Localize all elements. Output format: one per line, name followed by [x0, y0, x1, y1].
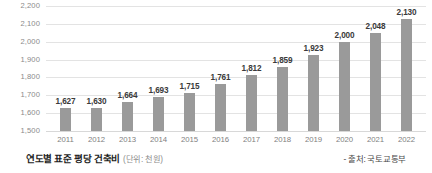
x-axis-tick-label: 2018 [267, 133, 298, 147]
bar[interactable] [184, 93, 195, 131]
bar[interactable] [401, 19, 412, 132]
bar-slot[interactable]: 1,812 [236, 6, 267, 131]
x-axis-tick-label: 2013 [112, 133, 143, 147]
bar[interactable] [246, 75, 257, 131]
bar-value-label: 1,664 [118, 91, 138, 100]
bar[interactable] [122, 102, 133, 131]
y-axis-tick-label: 1,700 [20, 91, 40, 99]
bar-slot[interactable]: 1,627 [50, 6, 81, 131]
bar-slot[interactable]: 2,048 [360, 6, 391, 131]
bar-slot[interactable]: 1,664 [112, 6, 143, 131]
bar-value-label: 1,630 [87, 97, 107, 106]
x-axis-tick-label: 2012 [81, 133, 112, 147]
gridline [46, 131, 426, 132]
caption-left: 연도별 표준 평당 건축비 (단위: 천원) [26, 151, 163, 165]
bar-value-label: 1,627 [56, 97, 76, 106]
bar[interactable] [339, 42, 350, 131]
bar[interactable] [370, 33, 381, 131]
bar-slot[interactable]: 1,923 [298, 6, 329, 131]
y-axis-tick-label: 1,500 [20, 127, 40, 135]
bar-value-label: 2,000 [335, 31, 355, 40]
x-axis-tick-label: 2019 [298, 133, 329, 147]
bar-value-label: 2,130 [397, 8, 417, 17]
bar-slot[interactable]: 1,859 [267, 6, 298, 131]
x-axis-tick-label: 2022 [391, 133, 422, 147]
bar-value-label: 1,761 [211, 73, 231, 82]
bar-value-label: 1,923 [304, 44, 324, 53]
y-axis-tick-label: 1,900 [20, 56, 40, 64]
caption: 연도별 표준 평당 건축비 (단위: 천원) - 출처: 국토교통부 [0, 151, 432, 167]
bar-slot[interactable]: 2,130 [391, 6, 422, 131]
y-axis-tick-label: 2,200 [20, 2, 40, 10]
y-axis-tick-label: 2,000 [20, 38, 40, 46]
y-axis-tick-label: 1,600 [20, 109, 40, 117]
x-axis-tick-label: 2020 [329, 133, 360, 147]
bar-slot[interactable]: 1,630 [81, 6, 112, 131]
bar-value-label: 2,048 [366, 22, 386, 31]
x-axis-tick-label: 2014 [143, 133, 174, 147]
caption-unit: (단위: 천원) [123, 152, 163, 164]
caption-source: - 출처: 국토교통부 [344, 152, 406, 164]
bar[interactable] [308, 55, 319, 131]
x-axis-tick-label: 2021 [360, 133, 391, 147]
bar-value-label: 1,859 [273, 56, 293, 65]
bar-value-label: 1,812 [242, 64, 262, 73]
bar-value-label: 1,693 [149, 86, 169, 95]
x-axis-tick-label: 2011 [50, 133, 81, 147]
bar-chart: 1,5001,6001,7001,8001,9002,0002,1002,200… [0, 6, 432, 148]
y-axis: 1,5001,6001,7001,8001,9002,0002,1002,200 [0, 6, 46, 131]
plot-area: 1,6271,6301,6641,6931,7151,7611,8121,859… [46, 6, 426, 131]
x-axis: 2011201220132014201520162017201820192020… [46, 133, 426, 147]
bar[interactable] [91, 108, 102, 131]
caption-title: 연도별 표준 평당 건축비 [26, 151, 120, 165]
bar-slot[interactable]: 2,000 [329, 6, 360, 131]
bar[interactable] [60, 108, 71, 131]
bar-slot[interactable]: 1,715 [174, 6, 205, 131]
bar-slot[interactable]: 1,761 [205, 6, 236, 131]
bar-value-label: 1,715 [180, 82, 200, 91]
bar-slot[interactable]: 1,693 [143, 6, 174, 131]
bar[interactable] [215, 84, 226, 131]
x-axis-tick-label: 2017 [236, 133, 267, 147]
bar[interactable] [153, 97, 164, 131]
bar-series: 1,6271,6301,6641,6931,7151,7611,8121,859… [46, 6, 426, 131]
y-axis-tick-label: 2,100 [20, 20, 40, 28]
y-axis-tick-label: 1,800 [20, 74, 40, 82]
x-axis-tick-label: 2015 [174, 133, 205, 147]
x-axis-tick-label: 2016 [205, 133, 236, 147]
bar[interactable] [277, 67, 288, 131]
chart-figure: 1,5001,6001,7001,8001,9002,0002,1002,200… [0, 0, 432, 173]
